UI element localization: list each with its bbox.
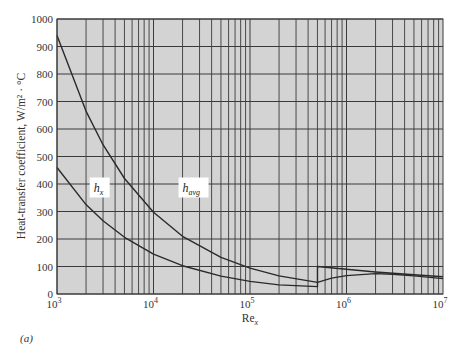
y-tick-label: 600 xyxy=(37,123,54,135)
heat-transfer-chart: hxhavg 01002003004005006007008009001000 … xyxy=(0,0,464,345)
x-tick-label: 103 xyxy=(47,296,62,310)
x-tick-label: 105 xyxy=(240,296,255,310)
y-tick-label: 100 xyxy=(37,261,54,273)
x-tick-label: 104 xyxy=(143,296,158,310)
x-axis-ticks: 103104105106107 xyxy=(47,296,448,310)
y-tick-label: 300 xyxy=(37,206,54,218)
x-tick-label: 106 xyxy=(336,296,351,310)
y-tick-label: 200 xyxy=(37,233,54,245)
y-axis-label: Heat-transfer coefficient, W/m² · °C xyxy=(15,73,28,240)
y-axis-ticks: 01002003004005006007008009001000 xyxy=(31,13,54,300)
x-tick-label: 107 xyxy=(433,296,448,310)
x-axis-label: Rex xyxy=(242,312,259,327)
y-tick-label: 1000 xyxy=(31,13,54,25)
y-tick-label: 700 xyxy=(37,96,54,108)
y-tick-label: 400 xyxy=(37,178,54,190)
y-tick-label: 800 xyxy=(37,68,54,80)
panel-label: (a) xyxy=(20,332,33,345)
y-tick-label: 500 xyxy=(37,151,54,163)
y-tick-label: 900 xyxy=(37,41,54,53)
